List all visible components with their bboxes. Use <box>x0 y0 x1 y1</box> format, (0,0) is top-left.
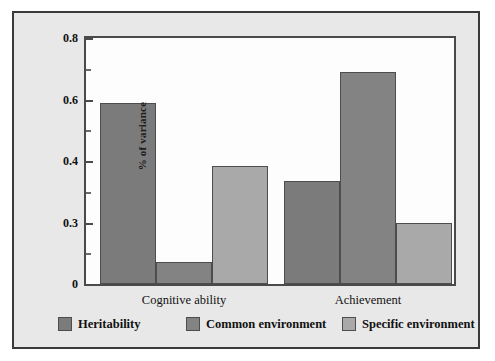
y-axis-tick-major <box>86 223 93 225</box>
bar-specific-environment <box>212 166 268 284</box>
y-axis-tick-minor <box>86 69 91 71</box>
chart-legend: HeritabilityCommon environmentSpecific e… <box>58 317 454 339</box>
y-axis-tick-label: 0.3 <box>44 215 78 230</box>
legend-item: Common environment <box>186 317 326 331</box>
y-axis-tick-major <box>86 100 93 102</box>
y-axis-tick-label: 0.4 <box>44 154 78 169</box>
legend-label: Heritability <box>78 317 141 331</box>
bar-heritability <box>284 181 340 284</box>
y-axis-title: % of variance <box>136 66 148 206</box>
figure-page-frame: 0.80.60.40.30Cognitive abilityAchievemen… <box>12 11 480 349</box>
x-axis-category-label: Cognitive ability <box>142 293 226 308</box>
plot-frame: 0.80.60.40.30Cognitive abilityAchievemen… <box>84 36 456 286</box>
legend-swatch-icon <box>58 317 72 331</box>
y-axis-tick-minor <box>86 192 91 194</box>
bar-common-environment <box>156 262 212 284</box>
y-axis-tick-minor <box>86 130 91 132</box>
figure-root: 0.80.60.40.30Cognitive abilityAchievemen… <box>0 0 495 361</box>
y-axis-tick-major <box>86 284 93 286</box>
legend-swatch-icon <box>342 317 356 331</box>
y-axis-tick-minor <box>86 253 91 255</box>
x-axis-category-label: Achievement <box>335 293 402 308</box>
legend-swatch-icon <box>186 317 200 331</box>
bar-specific-environment <box>396 223 452 285</box>
legend-label: Common environment <box>206 317 326 331</box>
y-axis-tick-label: 0.6 <box>44 92 78 107</box>
bar-common-environment <box>340 72 396 284</box>
y-axis-tick-major <box>86 38 93 40</box>
legend-label: Specific environment <box>362 317 475 331</box>
legend-item: Specific environment <box>342 317 475 331</box>
legend-item: Heritability <box>58 317 141 331</box>
y-axis-tick-label: 0 <box>44 277 78 292</box>
y-axis-tick-label: 0.8 <box>44 31 78 46</box>
y-axis-tick-major <box>86 161 93 163</box>
